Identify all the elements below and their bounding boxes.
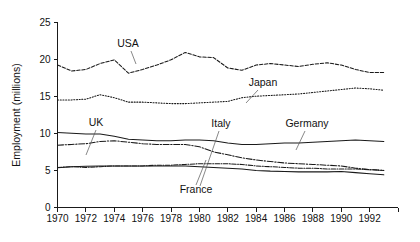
employment-line-chart: Employment (millions) 0510152025 1970197… bbox=[0, 0, 420, 242]
y-tick-labels: 0510152025 bbox=[39, 17, 51, 214]
y-tick-label: 25 bbox=[39, 17, 51, 28]
x-tick-label: 1990 bbox=[330, 213, 353, 224]
y-tick-label: 0 bbox=[45, 202, 51, 213]
y-tick-label: 20 bbox=[39, 54, 51, 65]
x-tick-label: 1978 bbox=[160, 213, 183, 224]
y-axis-label-group: Employment (millions) bbox=[10, 63, 22, 166]
x-tick-labels: 1970197219741976197819801982198419861988… bbox=[46, 213, 381, 224]
x-tick-label: 1980 bbox=[188, 213, 211, 224]
series-label-usa: USA bbox=[117, 37, 139, 49]
y-tick-label: 5 bbox=[45, 165, 51, 176]
x-tick-label: 1972 bbox=[75, 213, 98, 224]
x-tick-label: 1984 bbox=[245, 213, 268, 224]
x-tick-label: 1992 bbox=[359, 213, 382, 224]
y-axis-title: Employment (millions) bbox=[10, 63, 22, 166]
series-label-italy: Italy bbox=[211, 117, 231, 129]
axis-lines bbox=[58, 22, 399, 208]
annotation-leader-line bbox=[296, 131, 305, 150]
chart-canvas: Employment (millions) 0510152025 1970197… bbox=[0, 0, 420, 242]
series-label-japan: Japan bbox=[249, 76, 278, 88]
series-line-italy bbox=[58, 164, 384, 171]
x-tick-label: 1988 bbox=[302, 213, 325, 224]
x-tick-label: 1976 bbox=[132, 213, 155, 224]
y-tick-label: 10 bbox=[39, 128, 51, 139]
y-tick-label: 15 bbox=[39, 91, 51, 102]
series-line-france bbox=[58, 166, 384, 175]
x-tick-label: 1986 bbox=[273, 213, 296, 224]
series-label-uk: UK bbox=[89, 116, 104, 128]
series-line-japan bbox=[58, 88, 384, 104]
x-tick-label: 1974 bbox=[103, 213, 126, 224]
x-tick-label: 1970 bbox=[46, 213, 69, 224]
x-tick-label: 1982 bbox=[217, 213, 240, 224]
annotation-leader-line bbox=[131, 51, 136, 64]
annotation-leader-line bbox=[200, 131, 219, 186]
series-line-germany bbox=[58, 133, 384, 145]
series-line-usa bbox=[58, 52, 384, 73]
series-label-germany: Germany bbox=[285, 117, 329, 129]
series-label-france: France bbox=[180, 183, 213, 195]
data-series-group bbox=[58, 52, 384, 174]
